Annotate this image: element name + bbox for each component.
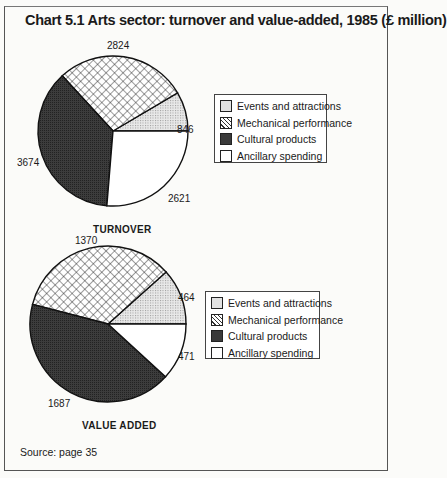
legend-item-ancillary: Ancillary spending	[220, 148, 320, 165]
value-added-label-events: 464	[178, 292, 195, 303]
legend-label: Ancillary spending	[228, 347, 313, 359]
legend-label: Ancillary spending	[237, 150, 322, 162]
crosshatch-swatch-icon	[220, 117, 232, 129]
value-added-pie	[30, 246, 186, 402]
white-swatch-icon	[220, 150, 232, 162]
legend-label: Mechanical performance	[237, 117, 352, 129]
turnover-label-events: 846	[177, 124, 194, 135]
legend-item-mechanical: Mechanical performance	[211, 312, 313, 329]
legend-item-cultural: Cultural products	[220, 131, 320, 148]
dotted-swatch-icon	[211, 297, 223, 309]
legend-item-mechanical: Mechanical performance	[220, 115, 320, 132]
source-note: Source: page 35	[20, 446, 97, 458]
dark-swatch-icon	[220, 133, 232, 145]
value-added-legend: Events and attractions Mechanical perfor…	[205, 291, 320, 359]
dotted-swatch-icon	[220, 100, 232, 112]
legend-label: Cultural products	[228, 330, 307, 342]
legend-label: Cultural products	[237, 133, 316, 145]
legend-item-ancillary: Ancillary spending	[211, 345, 313, 362]
legend-item-events: Events and attractions	[220, 98, 320, 115]
turnover-title: TURNOVER	[93, 224, 152, 235]
legend-label: Mechanical performance	[228, 314, 343, 326]
value-added-label-mechanical: 1370	[75, 235, 97, 246]
value-added-label-ancillary: 471	[178, 351, 195, 362]
dark-swatch-icon	[211, 330, 223, 342]
turnover-legend: Events and attractions Mechanical perfor…	[214, 94, 327, 163]
turnover-label-ancillary: 2621	[168, 193, 190, 204]
legend-item-cultural: Cultural products	[211, 328, 313, 345]
value-added-label-cultural: 1687	[48, 398, 70, 409]
legend-label: Events and attractions	[228, 297, 332, 309]
value-added-title: VALUE ADDED	[82, 420, 156, 431]
turnover-label-mechanical: 2824	[107, 40, 129, 51]
turnover-pie	[38, 56, 188, 206]
turnover-label-cultural: 3674	[17, 157, 39, 168]
legend-label: Events and attractions	[237, 100, 341, 112]
white-swatch-icon	[211, 347, 223, 359]
legend-item-events: Events and attractions	[211, 295, 313, 312]
crosshatch-swatch-icon	[211, 314, 223, 326]
